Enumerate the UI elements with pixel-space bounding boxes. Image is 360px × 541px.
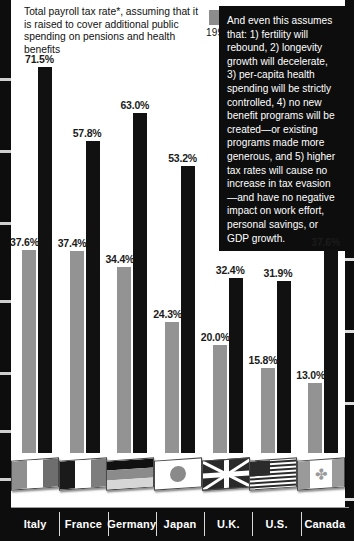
value-label-2030-us: 31.9% <box>264 267 293 279</box>
country-divider <box>252 512 253 536</box>
bar-group-france: 37.4%57.8% <box>59 48 107 453</box>
value-label-1995-italy: 37.6% <box>10 236 39 248</box>
value-label-1995-japan: 24.3% <box>153 308 182 320</box>
value-label-2030-italy: 71.5% <box>25 53 54 65</box>
country-label-bar: ItalyFranceGermanyJapanU.K.U.S.Canada <box>11 507 349 541</box>
value-label-1995-germany: 34.4% <box>105 253 134 265</box>
bar-1995-canada <box>308 383 322 453</box>
country-label-uk: U.K. <box>204 507 252 541</box>
bar-1995-germany <box>117 267 131 453</box>
value-label-2030-japan: 53.2% <box>168 152 197 164</box>
bar-group-us: 15.8%31.9% <box>250 48 298 453</box>
country-divider <box>156 512 157 536</box>
bar-1995-japan <box>165 322 179 453</box>
value-label-2030-germany: 63.0% <box>120 99 149 111</box>
country-label-france: France <box>59 507 107 541</box>
bar-2030-us <box>277 281 291 453</box>
flag-germany-icon <box>106 457 154 490</box>
bar-1995-us <box>261 368 275 453</box>
country-label-japan: Japan <box>156 507 204 541</box>
value-label-1995-uk: 20.0% <box>201 331 230 343</box>
country-label-italy: Italy <box>11 507 59 541</box>
bar-group-germany: 34.4%63.0% <box>106 48 154 453</box>
bar-group-italy: 37.6%71.5% <box>11 48 59 453</box>
bar-group-japan: 24.3%53.2% <box>154 48 202 453</box>
flag-strip: ✤ <box>11 455 345 507</box>
chart-page: Total payroll tax rate*, assuming that i… <box>0 0 360 541</box>
flag-us-icon <box>249 457 297 490</box>
country-divider <box>59 512 60 536</box>
flag-uk-icon <box>202 457 250 490</box>
bar-2030-italy <box>38 67 52 453</box>
bar-1995-italy <box>22 250 36 453</box>
value-label-2030-france: 57.8% <box>73 127 102 139</box>
bar-2030-germany <box>133 113 147 453</box>
chart-plot-area: 37.6%71.5%37.4%57.8%34.4%63.0%24.3%53.2%… <box>11 48 345 453</box>
value-label-1995-canada: 13.0% <box>296 369 325 381</box>
page-edge-left <box>0 0 11 541</box>
bar-1995-uk <box>213 345 227 453</box>
country-label-canada: Canada <box>301 507 349 541</box>
bar-2030-france <box>86 141 100 453</box>
page-edge-far-right <box>354 0 360 541</box>
flag-france-icon <box>59 457 107 490</box>
country-divider <box>108 512 109 536</box>
country-divider <box>301 512 302 536</box>
country-label-germany: Germany <box>108 507 156 541</box>
bar-2030-uk <box>229 278 243 453</box>
value-label-1995-us: 15.8% <box>249 354 278 366</box>
value-label-1995-france: 37.4% <box>58 237 87 249</box>
bar-group-uk: 20.0%32.4% <box>202 48 250 453</box>
flag-japan-icon <box>154 457 202 490</box>
flag-canada-icon: ✤ <box>297 457 345 490</box>
country-divider <box>204 512 205 536</box>
flag-italy-icon <box>11 457 59 490</box>
bar-2030-japan <box>181 166 195 453</box>
page-edge-right <box>345 0 354 541</box>
value-label-2030-uk: 32.4% <box>216 264 245 276</box>
country-label-us: U.S. <box>252 507 300 541</box>
value-label-2030-canada: 37.6% <box>311 236 340 248</box>
bar-1995-france <box>70 251 84 453</box>
bar-group-canada: 13.0%37.6% <box>297 48 345 453</box>
bar-2030-canada <box>324 250 338 453</box>
